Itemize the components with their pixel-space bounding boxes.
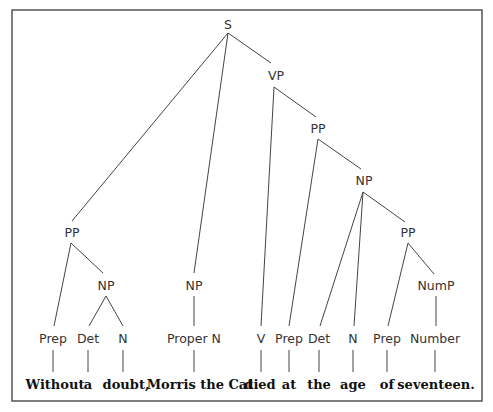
node-propern: Proper N [167, 331, 221, 346]
edge-s-np [194, 33, 228, 273]
word-without: Without [25, 377, 85, 392]
node-number: Number [410, 331, 461, 346]
node-prep3: Prep [373, 331, 401, 346]
node-pp-left: PP [64, 225, 80, 240]
edge-np-det [89, 296, 106, 326]
word-at: at [282, 377, 296, 392]
word-seventeen: seventeen. [397, 377, 474, 392]
edge-pp-prep2 [289, 139, 318, 326]
word-the: the [307, 377, 331, 392]
node-n2: N [348, 331, 357, 346]
tree-edges [53, 33, 436, 372]
node-det1: Det [77, 331, 99, 346]
word-a: a [84, 377, 93, 392]
edge-vp-v [261, 87, 274, 326]
sentence-words: Without a doubt, Morris the Cat died at … [25, 377, 475, 392]
edge-np-n2 [354, 192, 363, 326]
node-pp-vp: PP [310, 121, 326, 136]
edge-s-vp [228, 33, 271, 63]
node-s: S [224, 17, 232, 32]
syntax-tree-diagram: S VP PP NP PP NumP PP NP NP Prep Det N P… [0, 0, 493, 412]
edge-vp-pp [274, 87, 316, 117]
node-prep2: Prep [275, 331, 303, 346]
edge-pp-np2 [318, 139, 361, 169]
node-pp-np: PP [400, 225, 416, 240]
edge-s-pp [72, 33, 228, 221]
node-np-vp: NP [356, 173, 373, 188]
word-age: age [340, 377, 366, 392]
node-np-subject: NP [186, 278, 203, 293]
edge-pp-np [71, 243, 103, 273]
node-prep1: Prep [39, 331, 67, 346]
node-np-left: NP [98, 278, 115, 293]
edge-pp-prep [54, 243, 71, 326]
edge-pp-nump [408, 243, 434, 274]
node-det2: Det [308, 331, 330, 346]
word-morris-the-cat: Morris the Cat [147, 377, 254, 392]
edge-np-pp3 [363, 192, 405, 222]
word-died: died [244, 377, 275, 392]
node-v: V [257, 331, 266, 346]
word-doubt: doubt, [103, 377, 150, 392]
node-nump: NumP [418, 278, 455, 293]
edge-np-det2 [320, 192, 363, 326]
node-vp: VP [268, 68, 285, 83]
word-of: of [380, 377, 396, 392]
node-n1: N [118, 331, 127, 346]
edge-np-n [106, 296, 123, 326]
edge-pp-prep3 [388, 243, 408, 326]
tree-nodes: S VP PP NP PP NumP PP NP NP Prep Det N P… [39, 17, 461, 346]
